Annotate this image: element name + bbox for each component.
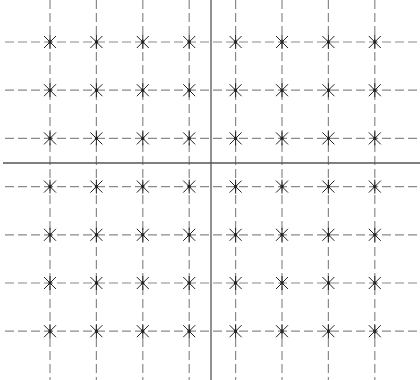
horizontal-grid-lines — [5, 42, 420, 331]
vertical-grid-lines — [50, 0, 375, 380]
axes — [3, 0, 420, 380]
grid-diagram — [0, 0, 420, 380]
